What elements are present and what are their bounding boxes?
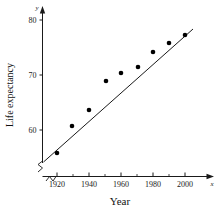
x-tick-label-1920: 1920 [49,180,65,189]
y-axis-break-icon [38,161,43,172]
trend-line [44,29,194,162]
y-tick-label-70: 70 [29,71,37,80]
x-tick-label-1940: 1940 [81,180,97,189]
data-point [87,108,92,113]
y-axis-title: Life expectancy [4,63,15,127]
y-axis-variable-label: y [34,4,39,12]
x-axis [43,174,215,179]
x-tick-label-1980: 1980 [145,180,161,189]
x-axis-title: Year [110,195,131,207]
chart-canvas: 80 70 60 y 1920 1940 1960 1980 2000 x [0,0,220,210]
data-point [104,79,109,84]
y-axis [40,6,45,163]
x-tick-marks [57,173,185,177]
scatter-chart: 80 70 60 y 1920 1940 1960 1980 2000 x [0,0,220,210]
x-tick-label-2000: 2000 [177,180,193,189]
x-axis-variable-label: x [209,180,214,188]
data-points [55,33,188,156]
data-point [70,124,75,129]
y-tick-label-60: 60 [29,126,37,135]
y-tick-label-80: 80 [29,16,37,25]
data-point [183,33,188,38]
data-point [119,71,124,76]
data-point [136,65,141,70]
data-point [55,151,60,156]
data-point [167,41,172,46]
x-tick-label-1960: 1960 [113,180,129,189]
data-point [151,50,156,55]
